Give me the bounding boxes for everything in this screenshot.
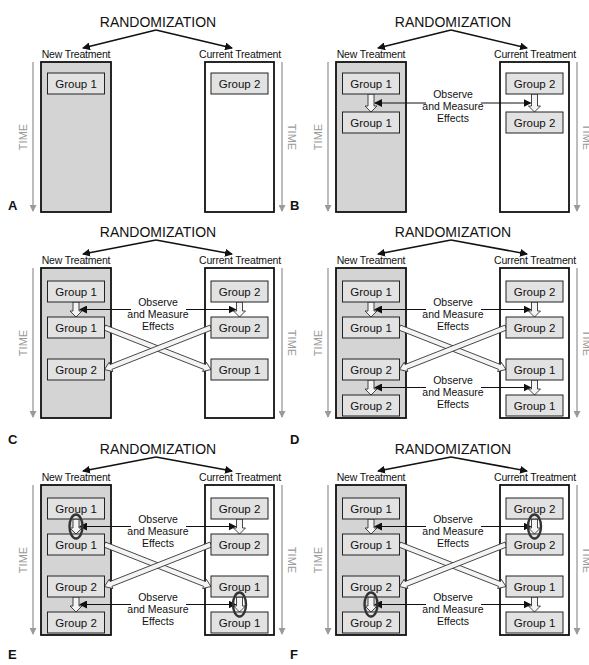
group-box-current-treatment: Group 1 (211, 576, 268, 597)
observe-label-line3: Effects (142, 537, 174, 549)
group-box-new-treatment: Group 1 (343, 73, 400, 94)
group-box-current-treatment: Group 1 (506, 359, 563, 380)
group-label: Group 2 (514, 78, 556, 90)
group-box-new-treatment: Group 1 (343, 112, 400, 133)
observe-label-line2: and Measure (422, 603, 483, 615)
new-treatment-label: New Treatment (337, 254, 406, 266)
group-label: Group 1 (55, 286, 97, 298)
group-box-new-treatment: Group 1 (343, 498, 400, 519)
group-box-current-treatment: Group 2 (506, 281, 563, 302)
panel-letter: E (8, 647, 17, 662)
group-box-current-treatment: Group 2 (506, 534, 563, 555)
randomization-arrow-right (451, 30, 527, 48)
observe-label-line1: Observe (433, 88, 473, 100)
randomization-title: RANDOMIZATION (100, 441, 216, 457)
group-label: Group 1 (514, 617, 556, 629)
group-box-current-treatment: Group 1 (211, 612, 268, 633)
group-box-new-treatment: Group 1 (343, 534, 400, 555)
group-box-current-treatment: Group 2 (211, 281, 268, 302)
observe-label-line2: and Measure (422, 308, 483, 320)
group-box-new-treatment: Group 1 (48, 534, 105, 555)
observe-label-line1: Observe (433, 513, 473, 525)
panel-diagram: RANDOMIZATIONNew TreatmentCurrent Treatm… (0, 218, 294, 436)
randomization-arrow-right (451, 240, 527, 254)
group-label: Group 1 (350, 286, 392, 298)
group-label: Group 2 (219, 286, 261, 298)
observe-label-line3: Effects (437, 537, 469, 549)
panel-b: RANDOMIZATIONNew TreatmentCurrent Treatm… (295, 0, 589, 218)
observe-label-line2: and Measure (127, 525, 188, 537)
group-label: Group 1 (514, 581, 556, 593)
randomization-arrow-left (83, 240, 156, 254)
randomization-arrow-left (378, 457, 451, 471)
group-box-current-treatment: Group 2 (506, 498, 563, 519)
randomization-arrow-left (83, 30, 156, 48)
observe-label-line3: Effects (437, 112, 469, 124)
group-box-current-treatment: Group 2 (211, 317, 268, 338)
group-label: Group 2 (350, 364, 392, 376)
group-box-current-treatment: Group 1 (211, 359, 268, 380)
panel-diagram: RANDOMIZATIONNew TreatmentCurrent Treatm… (295, 218, 589, 436)
group-label: Group 2 (55, 617, 97, 629)
group-box-new-treatment: Group 2 (343, 612, 400, 633)
group-label: Group 1 (350, 322, 392, 334)
group-label: Group 1 (55, 503, 97, 515)
group-label: Group 2 (514, 539, 556, 551)
group-label: Group 1 (350, 539, 392, 551)
group-label: Group 2 (219, 539, 261, 551)
randomization-title: RANDOMIZATION (395, 14, 511, 30)
randomization-arrow-right (156, 240, 232, 254)
panel-e: RANDOMIZATIONNew TreatmentCurrent Treatm… (0, 435, 294, 653)
observe-label-line3: Effects (142, 615, 174, 627)
group-box-current-treatment: Group 1 (506, 576, 563, 597)
panel-a: RANDOMIZATIONNew TreatmentCurrent Treatm… (0, 0, 294, 218)
group-label: Group 1 (55, 78, 97, 90)
group-label: Group 2 (514, 286, 556, 298)
observe-label-line3: Effects (437, 615, 469, 627)
randomization-title: RANDOMIZATION (100, 14, 216, 30)
randomization-title: RANDOMIZATION (100, 224, 216, 240)
group-label: Group 1 (219, 617, 261, 629)
panel-diagram: RANDOMIZATIONNew TreatmentCurrent Treatm… (295, 435, 589, 653)
group-label: Group 1 (514, 364, 556, 376)
current-treatment-label: Current Treatment (494, 471, 576, 483)
group-label: Group 2 (514, 503, 556, 515)
group-box-current-treatment: Group 1 (506, 395, 563, 416)
group-box-new-treatment: Group 2 (343, 359, 400, 380)
panel-letter: B (290, 198, 299, 213)
observe-label-line2: and Measure (127, 603, 188, 615)
observe-label-line2: and Measure (422, 100, 483, 112)
current-treatment-label: Current Treatment (494, 254, 576, 266)
group-label: Group 1 (350, 78, 392, 90)
randomization-arrow-left (378, 30, 451, 48)
group-box-new-treatment: Group 2 (48, 359, 105, 380)
group-box-new-treatment: Group 1 (343, 317, 400, 338)
group-label: Group 1 (219, 581, 261, 593)
observe-label-line3: Effects (142, 320, 174, 332)
new-treatment-label: New Treatment (337, 48, 406, 60)
panel-diagram: RANDOMIZATIONNew TreatmentCurrent Treatm… (0, 435, 294, 653)
observe-label-line1: Observe (138, 296, 178, 308)
time-label-left: TIME (17, 547, 29, 573)
group-label: Group 2 (219, 322, 261, 334)
group-box-new-treatment: Group 1 (48, 498, 105, 519)
group-box-new-treatment: Group 1 (48, 281, 105, 302)
current-treatment-label: Current Treatment (199, 254, 281, 266)
panel-d: RANDOMIZATIONNew TreatmentCurrent Treatm… (295, 218, 589, 436)
group-label: Group 2 (350, 581, 392, 593)
observe-label-line3: Effects (437, 320, 469, 332)
panel-diagram: RANDOMIZATIONNew TreatmentCurrent Treatm… (0, 0, 294, 218)
group-label: Group 2 (350, 400, 392, 412)
group-label: Group 1 (219, 364, 261, 376)
group-box-new-treatment: Group 1 (48, 73, 105, 94)
time-label-left: TIME (312, 124, 324, 150)
group-box-current-treatment: Group 2 (506, 73, 563, 94)
group-label: Group 1 (514, 400, 556, 412)
randomization-title: RANDOMIZATION (395, 441, 511, 457)
group-label: Group 2 (55, 364, 97, 376)
randomization-arrow-right (156, 30, 232, 48)
time-label-left: TIME (312, 547, 324, 573)
observe-label-line1: Observe (138, 591, 178, 603)
observe-label-line1: Observe (138, 513, 178, 525)
group-label: Group 2 (55, 581, 97, 593)
